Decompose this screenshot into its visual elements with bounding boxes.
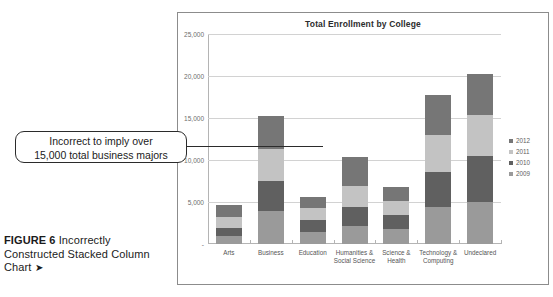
- bar-segment[interactable]: [216, 205, 242, 217]
- legend-item[interactable]: 2011: [509, 146, 547, 157]
- x-axis-tick: [417, 240, 418, 244]
- x-axis-tick: [334, 240, 335, 244]
- figure-caption: FIGURE 6 Incorrectly Constructed Stacked…: [4, 234, 154, 275]
- callout-leader-line: [186, 146, 323, 147]
- stacked-bar[interactable]: [467, 74, 493, 244]
- x-axis-tick: [292, 240, 293, 244]
- legend-label: 2012: [516, 137, 530, 144]
- x-axis-tick: [459, 240, 460, 244]
- plot-area: -5,00010,00015,00020,00025,000 ArtsBusin…: [208, 34, 501, 244]
- y-axis: [208, 34, 209, 244]
- bar-segment[interactable]: [300, 232, 326, 244]
- bar-segment[interactable]: [258, 149, 284, 181]
- legend-label: 2011: [516, 148, 530, 155]
- stacked-bar[interactable]: [383, 187, 409, 245]
- legend-label: 2010: [516, 159, 530, 166]
- figure-label: FIGURE 6: [4, 234, 56, 246]
- legend-item[interactable]: 2012: [509, 135, 547, 146]
- stacked-bar[interactable]: [216, 205, 242, 244]
- legend-swatch: [509, 150, 513, 154]
- legend-item[interactable]: 2010: [509, 157, 547, 168]
- bar-segment[interactable]: [258, 211, 284, 244]
- bar-segment[interactable]: [467, 156, 493, 202]
- callout-line-1: Incorrect to imply over: [16, 134, 186, 148]
- bar-segment[interactable]: [425, 135, 451, 172]
- x-axis-label: Undeclared: [449, 249, 511, 257]
- bar-segment[interactable]: [342, 226, 368, 244]
- legend-swatch: [509, 172, 513, 176]
- stacked-bar[interactable]: [342, 157, 368, 244]
- chart-figure-frame: Total Enrollment by College -5,00010,000…: [177, 12, 549, 285]
- callout-box: Incorrect to imply over 15,000 total bus…: [15, 131, 187, 163]
- bar-segment[interactable]: [383, 201, 409, 216]
- gridline: [208, 76, 501, 77]
- bar-segment[interactable]: [467, 115, 493, 156]
- x-axis-tick: [501, 240, 502, 244]
- bar-segment[interactable]: [425, 172, 451, 207]
- legend-item[interactable]: 2009: [509, 168, 547, 179]
- chart-legend: 2012201120102009: [509, 135, 547, 179]
- stacked-bar[interactable]: [425, 95, 451, 244]
- bar-segment[interactable]: [216, 228, 242, 236]
- arrow-icon: ➤: [35, 262, 43, 273]
- bar-segment[interactable]: [342, 157, 368, 186]
- bar-segment[interactable]: [425, 207, 451, 244]
- bar-segment[interactable]: [300, 197, 326, 209]
- x-axis-tick: [375, 240, 376, 244]
- bar-segment[interactable]: [258, 181, 284, 212]
- callout-line-2: 15,000 total business majors: [16, 148, 186, 162]
- legend-swatch: [509, 161, 513, 165]
- bar-segment[interactable]: [216, 236, 242, 244]
- bar-segment[interactable]: [300, 220, 326, 232]
- y-axis-tick-label: 25,000: [184, 31, 204, 38]
- stacked-bar[interactable]: [258, 116, 284, 244]
- x-axis-tick: [250, 240, 251, 244]
- gridline: [208, 118, 501, 119]
- gridline: [208, 34, 501, 35]
- legend-label: 2009: [516, 170, 530, 177]
- bar-segment[interactable]: [258, 116, 284, 149]
- legend-swatch: [509, 139, 513, 143]
- bar-segment[interactable]: [425, 95, 451, 135]
- y-axis-tick-label: 5,000: [188, 199, 204, 206]
- y-axis-tick-label: -: [202, 241, 204, 248]
- bar-segment[interactable]: [467, 202, 493, 244]
- bar-segment[interactable]: [216, 217, 242, 228]
- bar-segment[interactable]: [342, 186, 368, 207]
- bar-segment[interactable]: [383, 187, 409, 201]
- bar-segment[interactable]: [383, 215, 409, 229]
- y-axis-tick-label: 15,000: [184, 115, 204, 122]
- stacked-bar[interactable]: [300, 197, 326, 244]
- bar-segment[interactable]: [342, 207, 368, 226]
- y-axis-tick-label: 10,000: [184, 157, 204, 164]
- chart-title: Total Enrollment by College: [178, 19, 548, 29]
- bar-segment[interactable]: [383, 229, 409, 244]
- y-axis-tick-label: 20,000: [184, 73, 204, 80]
- bar-segment[interactable]: [300, 208, 326, 220]
- bar-segment[interactable]: [467, 74, 493, 114]
